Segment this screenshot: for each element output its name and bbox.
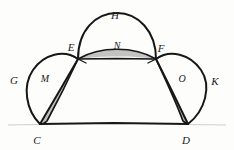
- label-G: G: [10, 74, 18, 86]
- region-labels: G H K M N O: [10, 9, 219, 87]
- segment-EF: [78, 58, 156, 59]
- arc-CE-outer: [27, 54, 78, 124]
- figure-canvas: C D E F G H K M N O: [0, 0, 234, 150]
- label-N: N: [113, 40, 122, 51]
- label-M: M: [40, 73, 50, 84]
- label-E: E: [67, 41, 75, 53]
- label-O: O: [178, 73, 185, 84]
- label-D: D: [181, 134, 190, 146]
- label-C: C: [33, 134, 41, 146]
- label-H: H: [110, 9, 120, 21]
- segment-CE: [40, 59, 78, 124]
- geometry-diagram: C D E F G H K M N O: [0, 0, 234, 150]
- faint-baselines: [8, 59, 226, 125]
- segment-CD: [40, 123, 188, 124]
- label-F: F: [157, 42, 165, 54]
- label-K: K: [210, 75, 219, 87]
- ink-strokes: [27, 13, 207, 124]
